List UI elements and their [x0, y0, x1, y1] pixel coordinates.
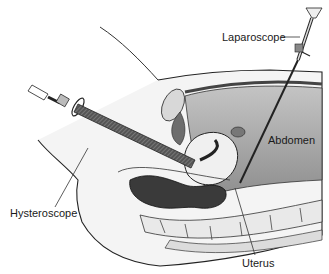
label-hysteroscope: Hysteroscope [10, 207, 77, 219]
label-laparoscope: Laparoscope [222, 31, 286, 43]
label-abdomen: Abdomen [268, 134, 315, 146]
label-uterus: Uterus [242, 257, 274, 269]
medical-illustration: Laparoscope Abdomen Hysteroscope Uterus [0, 0, 329, 274]
